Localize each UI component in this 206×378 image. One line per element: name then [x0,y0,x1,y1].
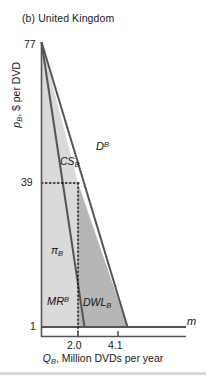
x-axis-label-units: , Million DVDs per year [56,352,163,364]
demand-curve-label: DB [96,140,109,152]
x-axis-label: QB, Million DVDs per year [0,352,206,366]
x-tick-label-4point1: 4.1 [108,339,123,351]
deadweight-loss-label: DWLB [83,296,111,310]
x-tick-label-2point0: 2.0 [67,339,82,351]
footer-divider [0,372,206,375]
marginal-cost-line-label: m [187,315,196,327]
profit-label-subscript: B [58,249,63,258]
y-tick-label-39: 39 [21,176,33,188]
deadweight-loss-label-text: DWL [83,296,106,308]
marginal-revenue-curve-label: MRB [47,295,69,307]
marginal-revenue-label-superscript: B [64,295,69,304]
consumer-surplus-label: CSB [60,155,80,169]
profit-label-text: π [51,244,58,256]
y-tick-label-77: 77 [24,38,36,50]
profit-label: πB [51,244,63,258]
deadweight-loss-label-subscript: B [106,301,111,310]
x-axis-label-variable: Q [43,352,51,364]
demand-curve-label-text: D [96,140,104,152]
y-tick-label-1: 1 [30,320,36,332]
demand-curve-label-superscript: B [104,140,109,149]
consumer-surplus-label-text: CS [60,155,75,167]
figure-panel-united-kingdom: (b) United Kingdom pB, $ per DVD 77 39 1… [0,0,206,378]
marginal-revenue-label-text: MR [47,295,64,307]
consumer-surplus-label-subscript: B [75,160,80,169]
